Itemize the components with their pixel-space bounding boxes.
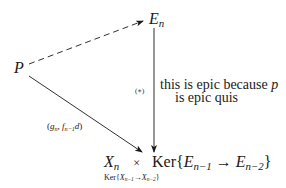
vertical-arrow-label: (∗) xyxy=(135,88,144,95)
node-e-n: En xyxy=(149,11,164,27)
diagonal-arrow-label: (gn, fn−1d) xyxy=(47,122,82,131)
fiber-product-subscript: Ker{Xn−1→Xn−2} xyxy=(104,174,160,182)
node-p: P xyxy=(14,60,24,76)
node-target: Xn × Ker{En−1 → En−2} xyxy=(104,154,271,170)
diagonal-arrow-p-to-target xyxy=(29,76,142,152)
fiber-product-symbol: × xyxy=(133,156,140,170)
commutative-diagram: En P (∗) this is epic because p is epic … xyxy=(0,0,286,188)
annotation-line-2: is epic quis xyxy=(175,91,238,105)
dashed-arrow-p-to-en xyxy=(29,21,143,64)
